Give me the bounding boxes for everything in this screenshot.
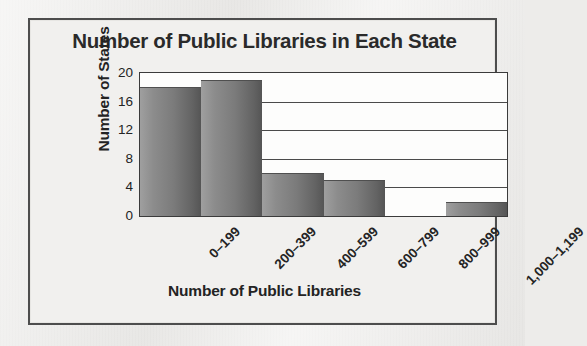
y-tick-label: 16 <box>107 93 133 108</box>
y-axis-tick-labels: 048121620 <box>107 72 133 215</box>
bar-series <box>140 73 507 216</box>
bar[interactable] <box>324 180 385 216</box>
bar[interactable] <box>446 202 507 216</box>
y-tick-label: 20 <box>107 65 133 80</box>
plot-area <box>139 72 508 217</box>
bar-slot <box>446 73 507 216</box>
bar-slot <box>385 73 446 216</box>
chart-figure: Number of Public Libraries in Each State… <box>28 18 497 325</box>
bar-slot <box>324 73 385 216</box>
y-tick-label: 4 <box>107 179 133 194</box>
x-axis-title: Number of Public Libraries <box>30 282 499 300</box>
y-tick-label: 8 <box>107 150 133 165</box>
bar-slot <box>140 73 201 216</box>
x-tick-label: 1,000–1,199 <box>523 224 587 288</box>
y-tick-label: 0 <box>107 208 133 223</box>
bar-slot <box>201 73 262 216</box>
bar[interactable] <box>262 173 323 216</box>
bar[interactable] <box>140 87 201 216</box>
bar-slot <box>262 73 323 216</box>
y-tick-label: 12 <box>107 122 133 137</box>
bar[interactable] <box>201 80 262 216</box>
